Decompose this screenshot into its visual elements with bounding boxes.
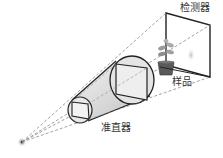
- collimator-label: 准直器: [101, 123, 131, 133]
- collimator: [68, 56, 154, 123]
- collimator-large-square: [116, 64, 147, 100]
- collimator-small-square: [72, 102, 89, 119]
- detector-label: 检测器: [180, 3, 210, 13]
- sample-shadow: [187, 48, 195, 62]
- sample-label: 样品: [172, 77, 192, 87]
